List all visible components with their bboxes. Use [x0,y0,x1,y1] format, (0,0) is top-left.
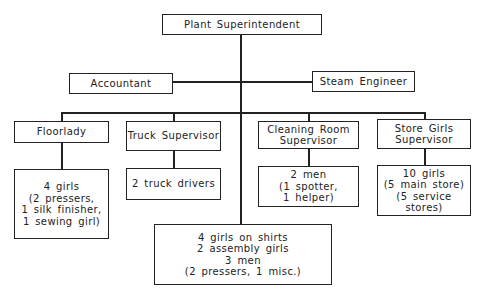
floorlady-staff-box: 4 girls (2 pressers, 1 silk finisher, 1 … [14,169,109,239]
floorlady-label: Floorlady [37,126,87,138]
floorlady-box: Floorlady [14,121,109,143]
connector-department-bus [61,112,425,114]
steam-engineer-label: Steam Engineer [320,76,408,88]
accountant-box: Accountant [69,73,173,94]
steam-engineer-box: Steam Engineer [312,71,415,92]
connector-staff-line [172,81,312,83]
plant-staff-box: 4 girls on shirts 2 assembly girls 3 men… [154,224,332,285]
cleaning-room-supervisor-label: Cleaning Room Supervisor [267,124,350,147]
connector-main-vertical [240,34,242,225]
plant-superintendent-box: Plant Superintendent [162,14,322,35]
plant-staff-label: 4 girls on shirts 2 assembly girls 3 men… [185,232,301,278]
truck-supervisor-label: Truck Supervisor [128,130,219,142]
store-girls-supervisor-box: Store Girls Supervisor [377,119,471,149]
accountant-label: Accountant [91,78,152,90]
connector-floorlady-staff [61,142,63,170]
floorlady-staff-label: 4 girls (2 pressers, 1 silk finisher, 1 … [21,181,101,227]
connector-truck-staff [173,150,175,169]
cleaning-room-supervisor-box: Cleaning Room Supervisor [258,121,359,149]
cleaning-staff-box: 2 men (1 spotter, 1 helper) [258,166,359,207]
truck-staff-label: 2 truck drivers [132,178,215,190]
connector-store-staff [424,148,426,166]
cleaning-staff-label: 2 men (1 spotter, 1 helper) [279,169,338,204]
store-staff-box: 10 girls (5 main store) (5 service store… [377,165,471,216]
connector-cleaning-staff [308,148,310,167]
truck-supervisor-box: Truck Supervisor [126,121,221,151]
plant-superintendent-label: Plant Superintendent [184,19,300,31]
store-staff-label: 10 girls (5 main store) (5 service store… [378,168,470,214]
store-girls-supervisor-label: Store Girls Supervisor [395,123,454,146]
truck-staff-box: 2 truck drivers [126,168,221,200]
